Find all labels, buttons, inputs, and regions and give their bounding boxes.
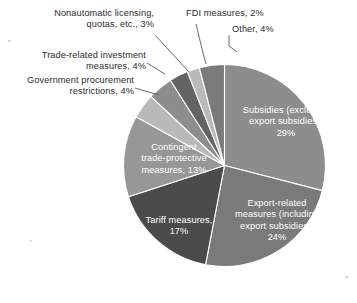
callout-label-nonautomatic-licensing: Nonautomatic licensing, quotas, etc., 3% [50,8,154,31]
slice-label-export-related: Export-related measures (including expor… [222,198,332,243]
pie-chart: Nonautomatic licensing, quotas, etc., 3%… [0,0,357,303]
callout-label-trade-related-investment: Trade-related investment measures, 4% [36,50,146,73]
leader-line-other [229,35,237,52]
callout-label-fdi-measures: FDI measures, 2% [186,8,296,19]
leader-line-fdi [196,24,206,64]
leader-line-trade-related-investment [147,63,165,74]
scan-speck-3 [345,276,348,278]
callout-label-government-procurement: Government procurement restrictions, 4% [11,75,134,98]
leader-line-nonautomatic [155,35,189,72]
slice-label-subsidies: Subsidies (excluding export subsidies), … [230,105,342,139]
scan-speck-2 [30,240,32,242]
slice-label-tariff-measures: Tariff measures, 17% [128,215,230,238]
slice-label-contingent: Contingent trade-protective measures, 13… [124,142,224,176]
scan-speck-1 [8,40,11,42]
callout-label-other: Other, 4% [232,24,308,35]
